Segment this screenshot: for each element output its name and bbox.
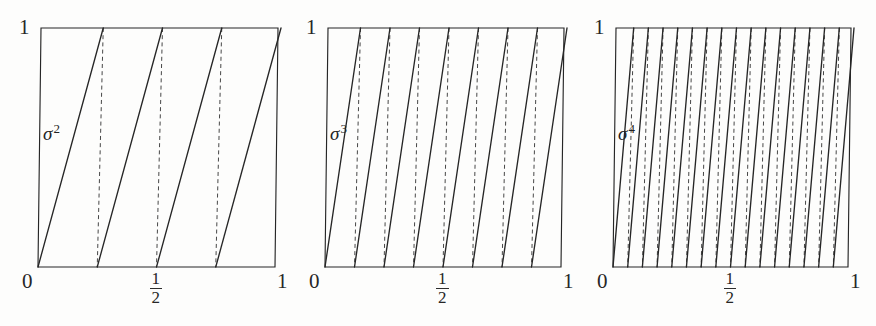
sigma-exponent: 4 xyxy=(628,121,635,136)
sigma-symbol: σ xyxy=(618,123,627,144)
panel-sigma-4-branches xyxy=(613,28,854,267)
fraction-denominator: 2 xyxy=(724,289,737,306)
panel-sigma-4-xtick-half: 12 xyxy=(724,270,737,307)
panel-sigma-4-operator-label: σ4 xyxy=(618,122,635,143)
panel-sigma-4-plot xyxy=(0,0,876,326)
panel-sigma-4-frame xyxy=(613,28,851,267)
fraction-numerator: 1 xyxy=(724,270,737,287)
panel-sigma-4-xtick-1: 1 xyxy=(850,271,861,292)
panel-sigma-4-ytick-1: 1 xyxy=(594,17,605,38)
panel-sigma-4-xtick-0: 0 xyxy=(597,271,608,292)
figure-iterated-doubling-map: 10121σ210121σ310121σ4 xyxy=(0,0,876,326)
